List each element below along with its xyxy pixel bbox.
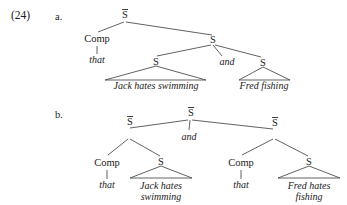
s-bar-glyph: S — [127, 116, 133, 128]
node-a-right-conjunct-s: S — [260, 58, 266, 69]
triangle-b-left — [130, 166, 192, 178]
edge-b-right-s — [275, 139, 308, 156]
node-a-comp: Comp — [84, 34, 110, 45]
terminal-b-left-string: Jack hates swimming — [140, 180, 182, 202]
node-a-root-sbar: S — [122, 9, 128, 21]
edge-b-root-right — [192, 120, 273, 129]
terminal-a-right-string: Fred fishing — [240, 81, 289, 91]
tree-lines — [0, 0, 347, 205]
terminal-b-right-that: that — [233, 180, 249, 190]
s-bar-glyph: S — [122, 9, 128, 21]
overbar — [188, 107, 194, 108]
terminal-b-right-line2: fishing — [288, 191, 331, 202]
terminal-b-left-line2: swimming — [140, 191, 182, 202]
edge-b-left-comp — [108, 139, 128, 155]
terminal-b-right-string: Fred hates fishing — [288, 180, 331, 202]
node-b-left-comp: Comp — [94, 158, 120, 169]
example-label-b: b. — [55, 110, 63, 121]
node-b-left-s: S — [158, 157, 164, 168]
edge-a-root-comp — [98, 22, 124, 32]
node-b-root-sbar: S — [188, 107, 194, 119]
node-b-right-s: S — [306, 157, 312, 168]
example-label-a: a. — [55, 12, 62, 23]
edge-a-root-s — [126, 22, 212, 35]
edge-b-right-comp — [242, 139, 273, 155]
node-b-right-sbar: S — [272, 117, 278, 129]
triangle-a-right — [239, 67, 290, 80]
terminal-a-left-string: Jack hates swimming — [114, 81, 199, 91]
s-bar-letter: S — [127, 116, 133, 127]
triangle-b-right — [278, 166, 340, 178]
edge-b-left-s — [130, 139, 160, 156]
s-bar-letter: S — [272, 117, 278, 128]
terminal-a-that: that — [89, 55, 105, 65]
s-bar-letter: S — [188, 107, 194, 118]
s-bar-glyph: S — [272, 117, 278, 129]
s-bar-letter: S — [122, 9, 128, 20]
triangle-a-left — [105, 66, 206, 80]
terminal-b-left-that: that — [99, 180, 115, 190]
edge-b-root-and — [189, 120, 190, 130]
edge-a-s-left — [157, 45, 211, 56]
terminal-b-right-line1: Fred hates — [288, 180, 331, 191]
conjunction-a-and: and — [220, 57, 235, 67]
s-bar-glyph: S — [188, 107, 194, 119]
node-b-left-sbar: S — [127, 116, 133, 128]
node-a-left-conjunct-s: S — [153, 57, 159, 68]
overbar — [272, 117, 278, 118]
conjunction-b-and: and — [182, 132, 197, 142]
node-b-right-comp: Comp — [228, 158, 254, 169]
terminal-b-left-line1: Jack hates — [140, 180, 182, 191]
overbar — [122, 9, 128, 10]
example-number: (24) — [11, 10, 30, 22]
figure-page: (24) a. b. S Comp that S S and S Jack ha… — [0, 0, 347, 205]
edge-b-root-left — [130, 120, 188, 128]
overbar — [127, 116, 133, 117]
edge-a-s-and — [213, 45, 222, 56]
node-a-coord-s: S — [210, 35, 216, 46]
